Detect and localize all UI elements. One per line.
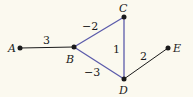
edge-a-b: [20, 47, 74, 48]
weight-b-c: −2: [82, 20, 98, 33]
node-b: [72, 45, 77, 50]
node-label-d: D: [118, 84, 128, 97]
weight-b-d: −3: [84, 66, 100, 79]
weight-a-b: 3: [43, 34, 50, 47]
node-label-e: E: [172, 42, 181, 55]
node-label-c: C: [119, 2, 128, 15]
graph-diagram: A B C D E 3 −2 −3 1 2: [0, 0, 193, 97]
node-label-b: B: [65, 53, 74, 66]
node-e: [166, 46, 171, 51]
node-c: [122, 15, 127, 20]
weight-d-e: 2: [140, 50, 147, 63]
node-label-a: A: [7, 42, 16, 55]
weight-c-d: 1: [113, 43, 120, 56]
node-d: [122, 77, 127, 82]
node-a: [18, 46, 23, 51]
